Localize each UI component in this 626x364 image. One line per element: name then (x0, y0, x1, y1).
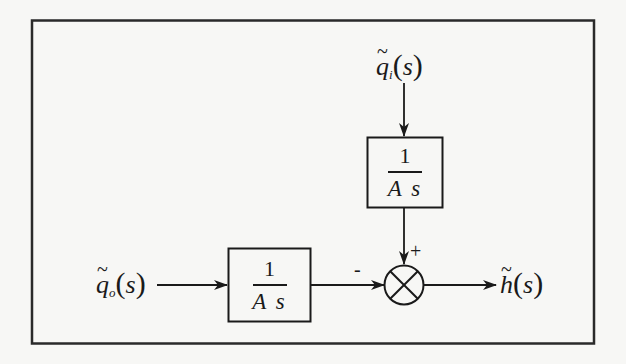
tilde-mark: ~ (97, 259, 108, 279)
output-label: ~h(s) (500, 268, 543, 298)
top-input-label: ~qi(s) (376, 50, 423, 80)
top-block-numerator: 1 (400, 144, 411, 168)
left-input-subscript: o (109, 285, 116, 300)
top-input-subscript: i (389, 67, 393, 82)
minus-sign: - (354, 258, 361, 281)
plus-sign: + (410, 240, 421, 263)
left-block-transfer-function: 1 A s (229, 249, 310, 321)
summing-junction (385, 266, 424, 305)
left-input-label: ~qo(s) (96, 268, 146, 298)
top-input-argument: s (403, 52, 413, 81)
top-block-transfer-function: 1 A s (368, 138, 442, 207)
output-argument: s (523, 270, 533, 299)
block-diagram (0, 0, 626, 364)
tilde-mark: ~ (377, 41, 388, 61)
top-block-denominator: A s (388, 177, 422, 201)
left-input-argument: s (126, 270, 136, 299)
fraction-bar (388, 171, 422, 173)
fraction-bar (253, 284, 287, 286)
tilde-mark: ~ (501, 259, 512, 279)
left-block-denominator: A s (252, 290, 286, 314)
left-block-numerator: 1 (264, 257, 275, 281)
